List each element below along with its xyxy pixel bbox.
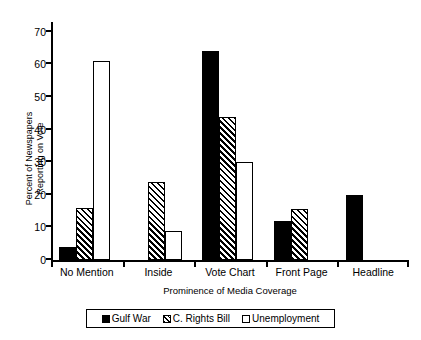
- hatched-swatch: [163, 315, 171, 323]
- bar-group: [339, 22, 411, 260]
- y-axis-tick-mark: [46, 258, 51, 260]
- y-axis-tick-label: 30: [24, 157, 46, 168]
- open-white-swatch: [242, 315, 250, 323]
- bar-unemployment: [165, 231, 182, 260]
- y-axis-tick-label: 20: [24, 190, 46, 201]
- legend-item-label: C. Rights Bill: [173, 313, 230, 324]
- bar-group: [125, 22, 197, 260]
- bar-unemployment: [93, 61, 110, 260]
- bar-gulf-war: [202, 51, 219, 260]
- bar-c-rights-bill: [219, 117, 236, 260]
- y-axis-tick-label: 70: [24, 27, 46, 38]
- y-axis-tick-label: 0: [24, 255, 46, 266]
- bar-chart: Percent of Newspapers Reporting on Vote …: [0, 0, 421, 340]
- solid-black-swatch: [102, 315, 110, 323]
- x-axis-category-label: Headline: [337, 266, 409, 278]
- legend-item: Gulf War: [102, 313, 151, 324]
- x-axis-category-label: No Mention: [51, 266, 123, 278]
- bar-c-rights-bill: [291, 209, 308, 260]
- legend-item-label: Unemployment: [252, 313, 319, 324]
- x-axis-title: Prominence of Media Coverage: [51, 285, 409, 296]
- x-axis-category-label: Front Page: [266, 266, 338, 278]
- bar-group: [53, 22, 125, 260]
- x-axis-category-label: Inside: [123, 266, 195, 278]
- bar-unemployment: [236, 162, 253, 260]
- y-axis-tick-mark: [46, 225, 51, 227]
- y-axis-tick-mark: [46, 62, 51, 64]
- y-axis-tick-mark: [46, 30, 51, 32]
- y-axis-tick-labels: 010203040506070: [20, 0, 46, 340]
- chart-legend: Gulf WarC. Rights BillUnemployment: [86, 309, 335, 328]
- y-axis-tick-mark: [46, 160, 51, 162]
- plot-area: [51, 22, 409, 262]
- y-axis-tick-label: 50: [24, 92, 46, 103]
- y-axis-tick-label: 10: [24, 222, 46, 233]
- y-axis-tick-label: 40: [24, 125, 46, 136]
- x-axis-line: [51, 260, 409, 262]
- bar-c-rights-bill: [76, 208, 93, 260]
- bar-gulf-war: [274, 221, 291, 260]
- y-axis-tick-mark: [46, 193, 51, 195]
- legend-item: C. Rights Bill: [163, 313, 230, 324]
- bar-group: [196, 22, 268, 260]
- legend-item-label: Gulf War: [112, 313, 151, 324]
- legend-item: Unemployment: [242, 313, 319, 324]
- bar-group: [268, 22, 340, 260]
- y-axis-tick-mark: [46, 95, 51, 97]
- y-axis-tick-mark: [46, 128, 51, 130]
- bar-gulf-war: [59, 247, 76, 260]
- y-axis-tick-label: 60: [24, 59, 46, 70]
- bar-gulf-war: [346, 195, 363, 260]
- x-axis-category-labels: No MentionInsideVote ChartFront PageHead…: [51, 266, 409, 282]
- bar-c-rights-bill: [148, 182, 165, 260]
- x-axis-category-label: Vote Chart: [194, 266, 266, 278]
